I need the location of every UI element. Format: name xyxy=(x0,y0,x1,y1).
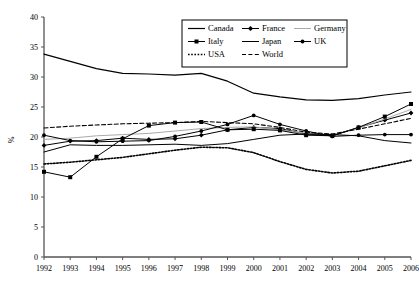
legend-marker xyxy=(301,40,305,44)
data-point xyxy=(199,129,203,133)
legend-label-canada: Canada xyxy=(208,23,234,33)
legend-label-uk: UK xyxy=(314,36,327,46)
data-point xyxy=(226,128,230,132)
data-point xyxy=(383,133,387,137)
data-point xyxy=(357,133,361,137)
x-tick-label: 2005 xyxy=(377,264,393,273)
x-tick-label: 1995 xyxy=(115,264,131,273)
data-point xyxy=(95,140,99,144)
data-point xyxy=(252,127,256,131)
legend-label-japan: Japan xyxy=(262,36,282,46)
data-point xyxy=(252,114,256,118)
legend-label-italy: Italy xyxy=(208,36,224,46)
data-point xyxy=(147,139,151,143)
x-tick-label: 2000 xyxy=(246,264,262,273)
y-tick-label: 15 xyxy=(30,163,38,172)
data-point xyxy=(383,115,387,119)
data-point xyxy=(409,111,414,116)
legend-label-germany: Germany xyxy=(314,23,346,33)
y-tick-label: 40 xyxy=(30,13,38,22)
x-tick-label: 1996 xyxy=(141,264,157,273)
series-line-usa xyxy=(44,147,411,173)
y-tick-label: 5 xyxy=(34,223,38,232)
y-tick-label: 10 xyxy=(30,193,38,202)
data-point xyxy=(42,170,46,174)
series-line-japan xyxy=(44,134,411,152)
x-tick-label: 2006 xyxy=(403,264,419,273)
x-tick-label: 1998 xyxy=(193,264,209,273)
x-tick-label: 1999 xyxy=(220,264,236,273)
data-point xyxy=(409,102,413,106)
data-point xyxy=(68,175,72,179)
data-point xyxy=(42,143,47,148)
data-point xyxy=(173,135,177,139)
legend-label-world: World xyxy=(262,49,284,59)
series-japan xyxy=(44,134,411,152)
data-point xyxy=(94,155,98,159)
legend: CanadaFranceGermanyItalyJapanUKUSAWorld xyxy=(182,20,347,67)
data-point xyxy=(147,124,151,128)
data-point xyxy=(409,133,413,137)
chart-canvas: 0510152025303540%19921993199419951996199… xyxy=(0,0,419,287)
x-tick-label: 1997 xyxy=(167,264,183,273)
y-tick-label: 20 xyxy=(30,133,38,142)
x-tick-label: 2004 xyxy=(351,264,367,273)
data-point xyxy=(199,133,204,138)
x-tick-label: 2003 xyxy=(324,264,340,273)
y-tick-label: 30 xyxy=(30,73,38,82)
line-chart: 0510152025303540%19921993199419951996199… xyxy=(0,0,419,287)
data-point xyxy=(278,128,282,132)
y-tick-label: 25 xyxy=(30,103,38,112)
data-point xyxy=(278,123,282,127)
legend-label-usa: USA xyxy=(208,49,226,59)
x-tick-label: 2002 xyxy=(298,264,314,273)
y-axis-title: % xyxy=(7,136,16,143)
x-tick-label: 2001 xyxy=(272,264,288,273)
x-tick-label: 1993 xyxy=(62,264,78,273)
legend-marker xyxy=(195,40,199,44)
x-tick-label: 1994 xyxy=(88,264,104,273)
y-tick-label: 35 xyxy=(30,43,38,52)
data-point xyxy=(68,139,72,143)
data-point xyxy=(121,139,125,143)
legend-label-france: France xyxy=(262,23,285,33)
data-point xyxy=(42,133,46,137)
series-usa xyxy=(44,147,411,173)
y-tick-label: 0 xyxy=(34,253,38,262)
x-tick-label: 1992 xyxy=(36,264,52,273)
data-point xyxy=(330,135,334,139)
